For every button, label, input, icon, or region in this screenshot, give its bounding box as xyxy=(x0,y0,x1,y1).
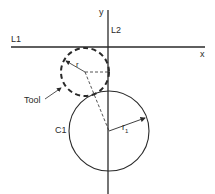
tool-to-c1-center-dashed xyxy=(85,72,109,131)
l1-label: L1 xyxy=(11,35,21,44)
c1-radius-subscript: 1 xyxy=(125,128,128,134)
x-axis-label: x xyxy=(200,50,205,59)
c1-label: C1 xyxy=(55,126,67,135)
tool-label: Tool xyxy=(24,96,41,105)
c1-radius-label: r1 xyxy=(122,123,128,134)
tool-radius-label: r xyxy=(76,61,79,69)
y-axis-label: y xyxy=(99,8,104,17)
l2-label: L2 xyxy=(111,26,121,35)
tool-label-leader xyxy=(45,88,61,99)
